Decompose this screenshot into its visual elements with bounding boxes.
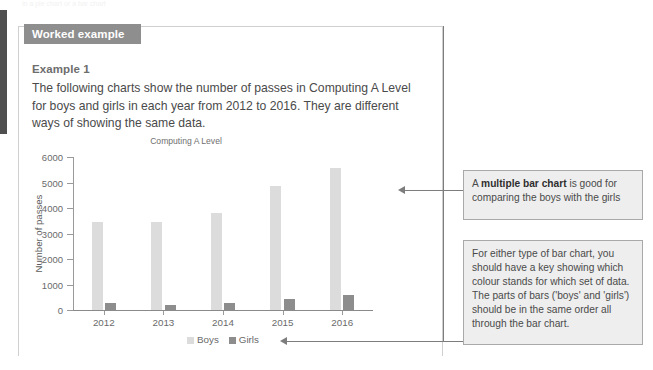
bar-girls-2015 [284, 299, 295, 310]
bar-chart: Computing A Level Number of passes 01000… [26, 136, 426, 351]
bars-layer [74, 157, 372, 310]
left-edge-accent-bar [0, 10, 7, 134]
y-tick-label: 2000 [26, 254, 67, 265]
legend-item-girls: Girls [229, 334, 259, 345]
note1-prefix: A [472, 178, 481, 189]
note-key-colours: For either type of bar chart, you should… [463, 240, 643, 345]
legend-label-girls: Girls [239, 334, 259, 345]
x-tick-mark [223, 311, 224, 315]
y-tick-mark [67, 234, 73, 235]
y-tick-mark [67, 310, 73, 311]
bar-girls-2016 [343, 295, 354, 310]
worked-example-banner: Worked example [24, 24, 141, 44]
x-tick-mark [283, 311, 284, 315]
legend-swatch-boys [187, 337, 194, 344]
panel-right-edge-line [443, 26, 444, 341]
y-tick-mark [67, 259, 73, 260]
chart-title: Computing A Level [26, 136, 346, 146]
x-tick-label: 2014 [212, 317, 234, 328]
bar-girls-2012 [105, 303, 116, 310]
note-multiple-bar-chart: A multiple bar chart is good for compari… [463, 170, 643, 220]
bar-boys-2013 [151, 222, 162, 310]
arrow-head-note2 [280, 337, 287, 345]
connector-line-note1 [405, 190, 463, 191]
bar-boys-2012 [92, 222, 103, 310]
y-tick-label: 6000 [26, 152, 67, 163]
note2-text: For either type of bar chart, you should… [472, 248, 629, 329]
y-tick-mark [67, 157, 73, 158]
x-tick-label: 2013 [152, 317, 174, 328]
bar-boys-2015 [270, 186, 281, 310]
bar-girls-2013 [165, 305, 176, 310]
x-tick-label: 2012 [93, 317, 115, 328]
y-tick-label: 4000 [26, 203, 67, 214]
bar-boys-2016 [330, 168, 341, 310]
legend-item-boys: Boys [187, 334, 219, 345]
x-tick-label: 2016 [331, 317, 353, 328]
connector-line-note2 [287, 341, 463, 342]
chart-legend: BoysGirls [73, 334, 373, 345]
note1-bold: multiple bar chart [481, 178, 566, 189]
y-tick-mark [67, 208, 73, 209]
y-tick-label: 1000 [26, 279, 67, 290]
y-tick-mark [67, 183, 73, 184]
y-tick-label: 5000 [26, 177, 67, 188]
arrow-head-note1 [398, 186, 405, 194]
bar-boys-2014 [211, 213, 222, 310]
bar-girls-2014 [224, 303, 235, 310]
legend-label-boys: Boys [197, 334, 219, 345]
x-tick-mark [163, 311, 164, 315]
worked-example-body: The following charts show the number of … [32, 80, 422, 133]
y-tick-label: 3000 [26, 228, 67, 239]
x-tick-mark [104, 311, 105, 315]
y-tick-mark [67, 285, 73, 286]
legend-swatch-girls [229, 337, 236, 344]
page-root: in a pie chart or a bar chart Worked exa… [0, 0, 653, 370]
x-tick-mark [342, 311, 343, 315]
top-cutoff-text: in a pie chart or a bar chart [22, 0, 442, 8]
x-tick-label: 2015 [272, 317, 294, 328]
example-label: Example 1 [32, 63, 90, 75]
y-tick-label: 0 [26, 305, 67, 316]
